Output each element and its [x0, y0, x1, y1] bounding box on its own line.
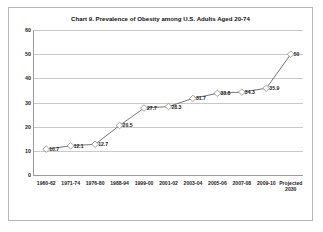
y-axis-tick-label: 30 — [25, 100, 31, 106]
data-point-label: 34.3 — [245, 89, 255, 95]
series-markers — [43, 51, 295, 152]
data-point-label: 33.8 — [220, 90, 230, 96]
y-axis-tick-label: 0 — [28, 172, 31, 178]
y-axis-tick-label: 40 — [25, 75, 31, 81]
data-point-label: 12.1 — [74, 143, 84, 149]
data-point-label: 12.7 — [98, 141, 108, 147]
y-axis-tick-label: 10 — [25, 148, 31, 154]
chart-container: Chart 9. Prevalence of Obesity among U.S… — [8, 7, 313, 221]
x-axis-tick-label: 1960-62 — [37, 180, 56, 186]
x-axis-tick-label: 1999-00 — [135, 180, 154, 186]
data-point-label: 35.9 — [269, 85, 279, 91]
x-axis-tick-label: 2007-08 — [233, 180, 252, 186]
data-point-label: 20.5 — [123, 122, 133, 128]
data-point-label: 31.7 — [196, 95, 206, 101]
x-axis-tick-label: 1988-94 — [110, 180, 129, 186]
line-series — [34, 30, 303, 175]
plot-area: 0102030405060 1960-621971-741976-801988-… — [33, 30, 303, 176]
y-axis-tick-label: 20 — [25, 124, 31, 130]
data-point-label: 27.7 — [147, 105, 157, 111]
x-axis-tick-label: Projected2030 — [279, 180, 302, 193]
x-axis-tick-label: 2001-02 — [159, 180, 178, 186]
data-point-label: 10.7 — [49, 146, 59, 152]
x-axis-tick-label: 2005-06 — [208, 180, 227, 186]
data-point-label: 50 — [294, 51, 300, 57]
y-axis-tick-label: 50 — [25, 51, 31, 57]
chart-title: Chart 9. Prevalence of Obesity among U.S… — [9, 15, 312, 22]
y-axis-tick-label: 60 — [25, 27, 31, 33]
x-axis-tick-label: 1971-74 — [61, 180, 80, 186]
x-axis-tick-label: 2009-10 — [257, 180, 276, 186]
x-axis-tick-label: 1976-80 — [86, 180, 105, 186]
data-point-label: 28.3 — [172, 104, 182, 110]
series-line — [46, 54, 291, 149]
x-axis-tick-label: 2003-04 — [184, 180, 203, 186]
